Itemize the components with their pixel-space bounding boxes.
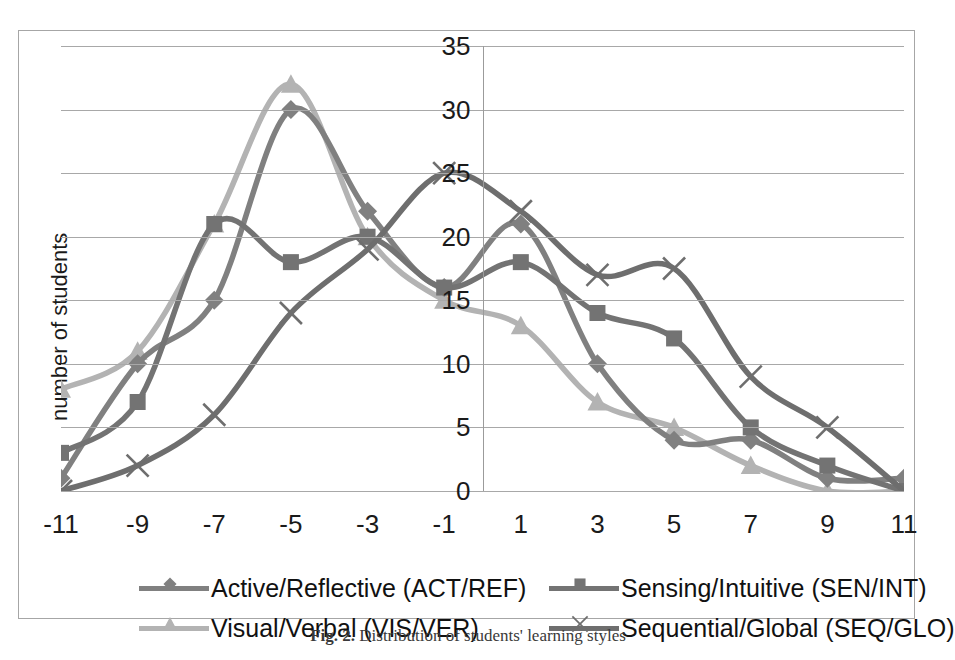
figure-caption: Fig. 2. Distribution of students' learni… bbox=[0, 626, 936, 646]
value-axis-line bbox=[483, 46, 484, 491]
y-axis-tick-label: 30 bbox=[425, 97, 471, 123]
x-axis-tick-label: -7 bbox=[179, 511, 249, 537]
legend-swatch-diamond bbox=[139, 573, 209, 603]
chart-frame: number of students 05101520253035 -11-9-… bbox=[18, 30, 915, 619]
legend-entry[interactable]: Active/Reflective (ACT/REF) bbox=[139, 571, 526, 605]
x-axis-tick-label: 11 bbox=[869, 511, 939, 537]
data-point-marker-square bbox=[574, 578, 585, 589]
legend-swatch-square bbox=[549, 573, 619, 603]
data-point-marker-cross bbox=[203, 404, 225, 426]
data-point-marker-square bbox=[589, 305, 605, 321]
caption-label: Fig. 2. bbox=[310, 626, 355, 645]
x-axis-tick-label: 5 bbox=[639, 511, 709, 537]
data-point-marker-square bbox=[130, 394, 146, 410]
plot-area: 05101520253035 bbox=[61, 46, 904, 491]
data-point-marker-square bbox=[819, 458, 835, 474]
y-axis-tick-label: 35 bbox=[425, 33, 471, 59]
data-point-marker-square bbox=[206, 216, 222, 232]
data-point-marker-cross bbox=[663, 258, 685, 280]
y-axis-tick-label: 15 bbox=[425, 287, 471, 313]
legend-label: Sensing/Intuitive (SEN/INT) bbox=[621, 576, 927, 601]
caption-text: Distribution of students' learning style… bbox=[359, 626, 626, 645]
x-axis-tick-label: -1 bbox=[409, 511, 479, 537]
data-point-marker-diamond bbox=[163, 577, 176, 590]
x-axis-tick-label: 7 bbox=[716, 511, 786, 537]
data-point-marker-square bbox=[61, 445, 69, 461]
legend-label: Active/Reflective (ACT/REF) bbox=[211, 576, 526, 601]
x-axis-tick-label: 9 bbox=[792, 511, 862, 537]
y-axis-tick-label: 10 bbox=[425, 351, 471, 377]
y-axis-tick-label: 5 bbox=[425, 414, 471, 440]
data-point-marker-square bbox=[666, 330, 682, 346]
data-point-marker-square bbox=[513, 254, 529, 270]
gridline bbox=[61, 491, 904, 492]
x-axis-tick-label: -11 bbox=[26, 511, 96, 537]
legend-entry[interactable]: Sensing/Intuitive (SEN/INT) bbox=[549, 571, 927, 605]
x-axis-tick-label: -5 bbox=[256, 511, 326, 537]
data-point-marker-cross bbox=[127, 455, 149, 477]
data-point-marker-square bbox=[283, 254, 299, 270]
data-point-marker-triangle bbox=[511, 316, 531, 335]
x-axis-tick-label: 3 bbox=[562, 511, 632, 537]
y-axis-tick-label: 20 bbox=[425, 224, 471, 250]
data-point-marker-cross bbox=[280, 302, 302, 324]
legend-marker-square-icon bbox=[571, 575, 589, 593]
y-axis-tick-label: 25 bbox=[425, 160, 471, 186]
x-axis-tick-label: 1 bbox=[486, 511, 556, 537]
data-point-marker-cross bbox=[740, 366, 762, 388]
legend-marker-diamond-icon bbox=[161, 575, 179, 593]
x-axis-tick-label: -3 bbox=[333, 511, 403, 537]
y-axis-tick-label: 0 bbox=[425, 478, 471, 504]
x-axis-tick-label: -9 bbox=[103, 511, 173, 537]
